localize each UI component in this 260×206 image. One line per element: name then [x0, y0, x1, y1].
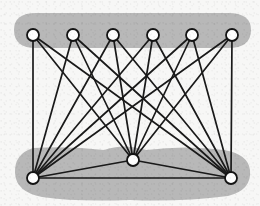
graph-edge	[133, 35, 153, 160]
graph-node-t5	[186, 29, 198, 41]
graph-node-b2	[127, 154, 139, 166]
top-region	[14, 13, 251, 48]
graph-node-t4	[147, 29, 159, 41]
graph-edge	[231, 35, 232, 178]
graph-node-b1	[27, 172, 39, 184]
graph-node-t3	[107, 29, 119, 41]
graph-node-t1	[27, 29, 39, 41]
graph-node-t2	[67, 29, 79, 41]
graph-canvas	[0, 0, 260, 206]
graph-figure	[0, 0, 260, 206]
graph-node-b3	[225, 172, 237, 184]
graph-node-t6	[226, 29, 238, 41]
